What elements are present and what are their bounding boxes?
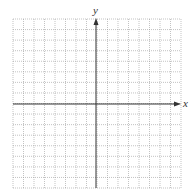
coordinate-grid xyxy=(0,0,192,196)
x-axis-label: x xyxy=(183,98,188,109)
y-axis-label: y xyxy=(93,5,98,16)
x-axis-arrow-icon xyxy=(174,102,181,107)
